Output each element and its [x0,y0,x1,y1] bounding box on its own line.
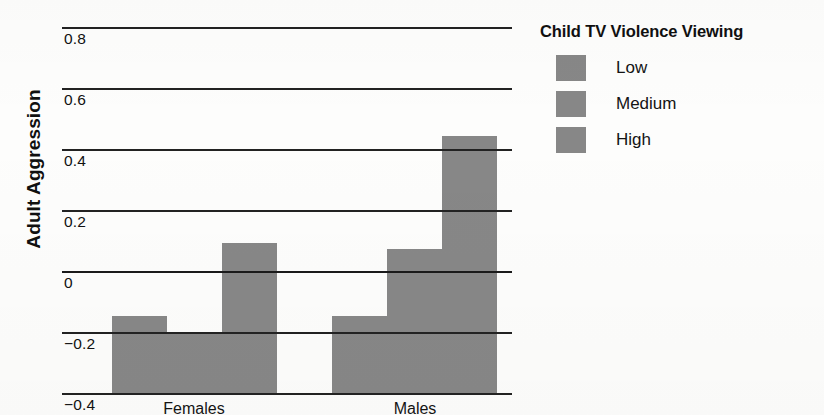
legend-item-medium: Medium [540,86,820,122]
bar-chart: Adult Aggression 0.8 0.6 [0,0,824,415]
gridline-0.8-overlay [62,27,512,29]
y-tick-label-0.8: 0.8 [64,30,86,48]
gridline-0.6-overlay [62,88,512,90]
bar-males-high [442,136,497,395]
legend-title: Child TV Violence Viewing [540,22,820,41]
bar-females-low [112,316,167,395]
gridline-0.2-overlay [62,210,512,212]
y-axis-title: Adult Aggression [23,49,45,289]
chart-legend: Child TV Violence Viewing Low Medium Hig… [540,22,820,158]
bars-layer [62,20,512,395]
y-tick-label-0.6: 0.6 [64,91,86,109]
y-tick-label-0: 0 [64,274,73,292]
legend-swatch-high [556,127,586,153]
gridline-0-overlay [62,271,512,273]
y-tick-label-0.4: 0.4 [64,152,86,170]
gridline--0.2-overlay [62,332,512,334]
gridline-0.4-overlay [62,149,512,151]
bar-males-low [332,316,387,395]
x-category-label-females: Females [134,400,254,415]
legend-label-low: Low [616,58,647,78]
x-category-label-males: Males [355,400,475,415]
legend-swatch-low [556,55,586,81]
y-tick-label--0.2: −0.2 [64,335,95,353]
bar-females-medium [167,334,222,395]
gridline--0.4-overlay [62,393,512,395]
legend-item-low: Low [540,50,820,86]
legend-swatch-medium [556,91,586,117]
bar-females-high [222,243,277,396]
plot-area: 0.8 0.6 0.4 0.2 0 −0.2 −0.4 Females Male… [62,20,512,395]
legend-label-medium: Medium [616,94,676,114]
y-tick-label--0.4: −0.4 [64,396,95,414]
legend-item-high: High [540,122,820,158]
y-tick-label-0.2: 0.2 [64,213,86,231]
legend-label-high: High [616,130,651,150]
